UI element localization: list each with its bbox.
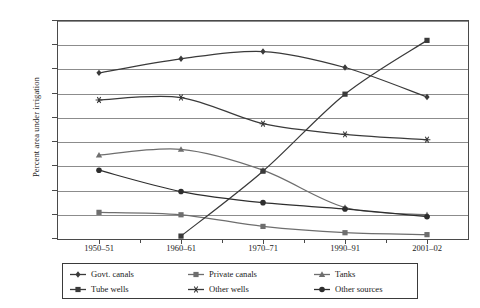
data-point-square <box>342 92 347 97</box>
series-lines <box>58 21 468 239</box>
data-point-square <box>96 210 101 215</box>
legend-marker-circle-icon <box>313 285 331 294</box>
data-point-square <box>260 224 265 229</box>
data-point-diamond <box>260 48 265 54</box>
x-tick-mark <box>345 240 346 244</box>
data-point-star <box>342 131 349 137</box>
legend-label: Tanks <box>335 270 355 279</box>
data-point-star <box>193 287 200 293</box>
data-point-circle <box>319 287 325 293</box>
legend-label: Other wells <box>209 285 249 294</box>
series-line <box>99 170 427 217</box>
series-line <box>99 51 427 97</box>
data-point-diamond <box>342 64 347 70</box>
data-point-star <box>96 97 103 103</box>
y-axis-title: Percent area under irrigation <box>31 27 41 227</box>
chart-legend: Govt. canalsPrivate canalsTanksTube well… <box>62 263 418 299</box>
data-point-diamond <box>96 70 101 76</box>
legend-marker-triangle-icon <box>313 270 331 279</box>
x-tick-label: 1990–91 <box>305 243 385 253</box>
series-line <box>99 96 427 139</box>
x-tick-label: 1960–61 <box>141 243 221 253</box>
chart-figure: Percent area under irrigation 0510152025… <box>0 0 480 308</box>
data-point-circle <box>342 206 348 212</box>
data-point-star <box>178 95 185 101</box>
series-line <box>99 212 427 234</box>
legend-item[interactable]: Govt. canals <box>69 270 187 279</box>
data-point-square <box>178 212 183 217</box>
legend-item[interactable]: Tanks <box>313 270 419 279</box>
legend-item[interactable]: Other sources <box>313 285 419 294</box>
data-point-square <box>342 230 347 235</box>
x-tick-mark <box>99 240 100 244</box>
data-point-star <box>424 137 431 143</box>
x-tick-mark <box>427 240 428 244</box>
series-line <box>181 40 427 236</box>
data-point-square <box>193 272 198 277</box>
data-point-circle <box>424 214 430 220</box>
legend-label: Other sources <box>335 285 383 294</box>
data-point-diamond <box>424 94 429 100</box>
legend-marker-square-icon <box>187 270 205 279</box>
data-point-square <box>424 38 429 43</box>
legend-item[interactable]: Other wells <box>187 285 313 294</box>
data-point-circle <box>178 189 184 195</box>
data-point-square <box>178 233 183 238</box>
legend-label: Private canals <box>209 270 257 279</box>
data-point-diamond <box>178 56 183 62</box>
legend-item[interactable]: Private canals <box>187 270 313 279</box>
x-tick-label: 1970–71 <box>223 243 303 253</box>
data-point-circle <box>96 167 102 173</box>
data-point-circle <box>260 200 266 206</box>
data-point-square <box>75 287 80 292</box>
legend-item[interactable]: Tube wells <box>69 285 187 294</box>
x-tick-label: 2001–02 <box>387 243 467 253</box>
legend-marker-diamond-icon <box>69 270 87 279</box>
x-tick-label: 1950–51 <box>59 243 139 253</box>
x-tick-mark <box>263 240 264 244</box>
legend-marker-square-icon <box>69 285 87 294</box>
chart-svg <box>58 21 468 239</box>
legend-label: Govt. canals <box>91 270 134 279</box>
legend-label: Tube wells <box>91 285 129 294</box>
data-point-square <box>424 232 429 237</box>
legend-marker-star-icon <box>187 285 205 294</box>
data-point-diamond <box>75 271 80 277</box>
plot-area <box>57 20 469 240</box>
x-tick-mark <box>181 240 182 244</box>
data-point-star <box>260 121 267 127</box>
data-point-square <box>260 169 265 174</box>
